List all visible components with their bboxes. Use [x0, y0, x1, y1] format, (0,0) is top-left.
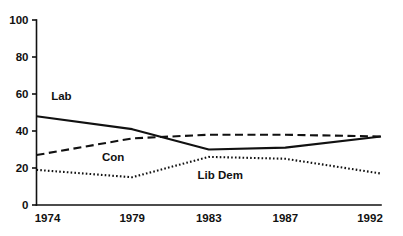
x-tick-label: 1983	[196, 212, 222, 224]
y-tick-label: 100	[9, 14, 28, 26]
y-axis-group: 020406080100	[9, 14, 36, 211]
series-label-con: Con	[102, 151, 124, 163]
y-tick-labels: 020406080100	[9, 14, 28, 211]
y-tick-label: 20	[16, 162, 29, 174]
series-lines	[37, 116, 382, 177]
x-tick-label: 1992	[357, 212, 383, 224]
y-tick-label: 40	[16, 125, 29, 137]
chart-canvas: 020406080100 19741979198319871992 LabCon…	[0, 0, 403, 236]
y-tick-label: 80	[16, 51, 29, 63]
x-tick-labels: 19741979198319871992	[35, 212, 383, 224]
x-tick-label: 1974	[35, 212, 61, 224]
series-label-lib-dem: Lib Dem	[198, 169, 243, 181]
series-line-lab	[37, 116, 382, 149]
y-tick-label: 60	[16, 88, 29, 100]
x-axis-group: 19741979198319871992	[35, 205, 383, 224]
y-tick-label: 0	[22, 199, 28, 211]
series-line-con	[37, 135, 382, 155]
line-chart: 020406080100 19741979198319871992 LabCon…	[0, 0, 403, 236]
x-tick-label: 1979	[119, 212, 145, 224]
series-label-lab: Lab	[51, 90, 71, 102]
x-tick-label: 1987	[273, 212, 299, 224]
